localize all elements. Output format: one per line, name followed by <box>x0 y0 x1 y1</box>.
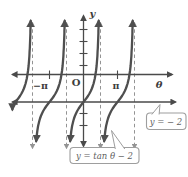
tangent-curve-branch <box>12 21 30 110</box>
figure-container: y θ O −π π y = − 2 y = tan θ − 2 <box>0 0 188 177</box>
hline-callout: y = − 2 <box>147 105 187 130</box>
tangent-graph-canvas: y θ O −π π y = − 2 y = tan θ − 2 <box>0 0 188 177</box>
x-axis-label: θ <box>156 79 163 90</box>
hline-callout-text: y = − 2 <box>149 117 183 127</box>
neg-pi-tick-label: −π <box>33 80 48 91</box>
y-axis-label: y <box>89 8 97 19</box>
pi-tick-label: π <box>113 80 120 91</box>
hline-callout-pointer <box>151 105 160 116</box>
origin-label: O <box>72 77 81 88</box>
curve-callout-text: y = tan θ − 2 <box>75 151 133 161</box>
